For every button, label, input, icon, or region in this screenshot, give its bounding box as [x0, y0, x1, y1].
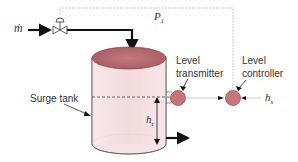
diagram-canvas: [0, 0, 298, 162]
level-transmitter-label: Level transmitter: [176, 55, 223, 79]
measurement-signal-line: [186, 96, 224, 100]
tank-height-label: ht: [146, 114, 153, 130]
setpoint-subscript: s: [271, 98, 274, 106]
level-controller-label: Level controller: [242, 55, 283, 79]
tank-height-subscript: t: [152, 120, 154, 128]
level-transmitter-icon: [166, 79, 188, 106]
level-transmitter-label-line1: Level: [176, 55, 223, 66]
level-controller-label-line1: Level: [242, 55, 283, 66]
pressure-signal-symbol: P: [154, 10, 161, 22]
control-valve-icon: [53, 18, 67, 34]
setpoint-label: hs: [265, 92, 273, 108]
setpoint-signal-line: [241, 96, 261, 100]
pressure-signal-subscript: 1: [161, 17, 165, 25]
surge-tank-label: Surge tank: [30, 93, 78, 104]
pressure-signal-label: P1: [154, 11, 164, 27]
level-controller-icon: [226, 80, 247, 106]
surge-tank: [92, 47, 166, 154]
mass-flow-label: ṁ: [14, 23, 23, 34]
level-transmitter-label-line2: transmitter: [176, 68, 223, 79]
surge-tank-pointer: [64, 104, 91, 116]
level-controller-label-line2: controller: [242, 68, 283, 79]
